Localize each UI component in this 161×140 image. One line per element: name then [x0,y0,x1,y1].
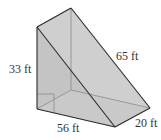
base-label: 56 ft [57,122,79,134]
hypotenuse-label: 65 ft [116,50,138,62]
depth-label: 20 ft [135,117,157,129]
height-label: 33 ft [9,63,31,75]
